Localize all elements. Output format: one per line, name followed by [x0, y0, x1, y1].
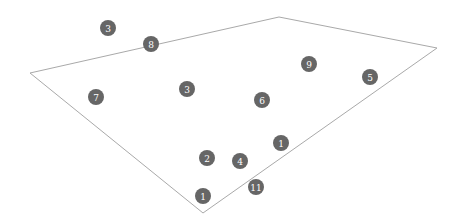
- marker-label: 1: [200, 192, 206, 202]
- numbered-marker: 9: [301, 56, 317, 72]
- marker-label: 7: [93, 93, 99, 103]
- marker-label: 6: [259, 96, 265, 106]
- numbered-marker: 5: [362, 69, 378, 85]
- numbered-marker: 2: [199, 150, 215, 166]
- numbered-marker: 8: [143, 36, 159, 52]
- numbered-marker: 7: [88, 89, 104, 105]
- marker-label: 4: [237, 157, 243, 167]
- marker-label: 9: [306, 60, 312, 70]
- marker-label: 1: [278, 139, 284, 149]
- region-outline: [30, 17, 437, 213]
- numbered-marker: 11: [248, 179, 264, 195]
- numbered-marker: 1: [195, 188, 211, 204]
- numbered-marker: 3: [179, 81, 195, 97]
- marker-label: 2: [204, 154, 210, 164]
- marker-label: 3: [184, 85, 190, 95]
- marker-label: 11: [250, 183, 261, 193]
- numbered-marker: 3: [100, 20, 116, 36]
- numbered-marker: 6: [254, 92, 270, 108]
- marker-label: 8: [148, 40, 154, 50]
- marker-label: 5: [367, 73, 373, 83]
- diagram-canvas: 3873695124111: [0, 0, 459, 219]
- numbered-marker: 4: [232, 153, 248, 169]
- marker-label: 3: [105, 24, 111, 34]
- marker-layer: 3873695124111: [88, 20, 378, 204]
- numbered-marker: 1: [273, 135, 289, 151]
